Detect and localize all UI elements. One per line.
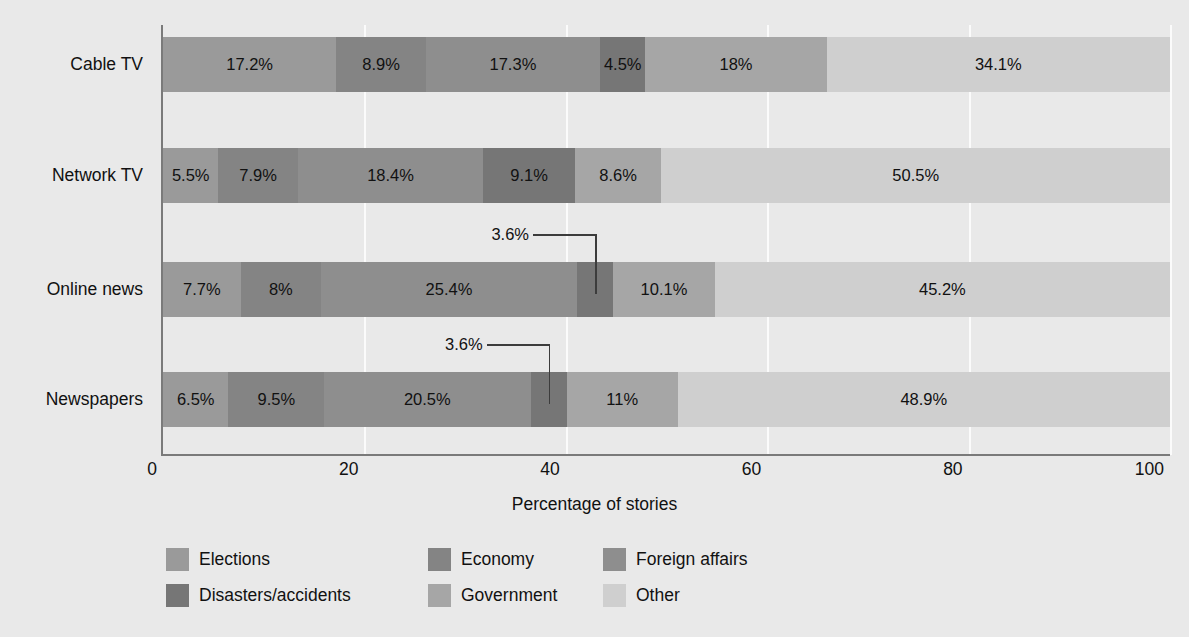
callout-leader-horizontal: [487, 344, 549, 346]
legend-label: Economy: [461, 549, 534, 570]
stacked-bar-chart: Cable TVNetwork TVOnline newsNewspapers …: [0, 0, 1189, 637]
category-label: Cable TV: [70, 54, 143, 75]
bar-segment: 10.1%: [613, 262, 715, 317]
bar-segment-label: 7.9%: [239, 166, 277, 185]
callout-label: 3.6%: [491, 225, 529, 244]
bar-segment: 9.5%: [228, 372, 324, 427]
bar-segment: 4.5%: [600, 37, 645, 92]
bar-segment: 11%: [567, 372, 678, 427]
gridline-100: [1170, 25, 1172, 455]
legend-label: Disasters/accidents: [199, 585, 351, 606]
bar-segment-label: 10.1%: [641, 280, 688, 299]
bar-segment-label: 9.1%: [510, 166, 548, 185]
bar-segment-label: 17.2%: [226, 55, 273, 74]
x-tick-label: 20: [339, 459, 364, 480]
x-tick-label: 60: [742, 459, 767, 480]
bar-segment: 18%: [645, 37, 826, 92]
bar-segment: 7.7%: [163, 262, 241, 317]
bar-segment: 34.1%: [827, 37, 1170, 92]
bar-segment: 7.9%: [218, 148, 298, 203]
callout-leader-horizontal: [533, 234, 595, 236]
bar-segment-label: 45.2%: [919, 280, 966, 299]
legend-swatch-icon: [603, 584, 626, 607]
x-tick-label: 100: [1135, 459, 1170, 480]
bar-segment: 8.9%: [336, 37, 426, 92]
x-axis-title: Percentage of stories: [0, 494, 1189, 515]
plot-area: 17.2%8.9%17.3%4.5%18%34.1%5.5%7.9%18.4%9…: [163, 25, 1170, 455]
bar-segment-label: 4.5%: [604, 55, 642, 74]
legend-swatch-icon: [428, 548, 451, 571]
bar-segment-label: 25.4%: [426, 280, 473, 299]
bar-segment-label: 8.6%: [599, 166, 637, 185]
bar-row: 5.5%7.9%18.4%9.1%8.6%50.5%: [163, 148, 1170, 203]
legend-label: Government: [461, 585, 557, 606]
bar-segment-label: 17.3%: [490, 55, 537, 74]
category-label: Newspapers: [46, 389, 143, 410]
bar-segment-label: 5.5%: [172, 166, 210, 185]
callout-label: 3.6%: [445, 335, 483, 354]
bar-segment-label: 50.5%: [892, 166, 939, 185]
bar-segment-label: 8.9%: [362, 55, 400, 74]
callout-leader-vertical: [549, 344, 551, 404]
bar-segment: 48.9%: [678, 372, 1170, 427]
bar-segment: 17.2%: [163, 37, 336, 92]
bar-segment: 8%: [241, 262, 322, 317]
x-axis-ticks: 020406080100: [163, 455, 1170, 485]
legend: ElectionsEconomyForeign affairs Disaster…: [166, 548, 866, 620]
legend-item[interactable]: Elections: [166, 548, 270, 571]
bar-segment-label: 18.4%: [367, 166, 414, 185]
bar-segment-label: 20.5%: [404, 390, 451, 409]
legend-swatch-icon: [166, 584, 189, 607]
callout-leader-vertical: [595, 234, 597, 294]
bar-segment-label: 7.7%: [183, 280, 221, 299]
legend-item[interactable]: Government: [428, 584, 557, 607]
legend-item[interactable]: Disasters/accidents: [166, 584, 351, 607]
bar-segment-label: 6.5%: [177, 390, 215, 409]
legend-swatch-icon: [428, 584, 451, 607]
category-label: Online news: [47, 279, 143, 300]
legend-row-2: Disasters/accidentsGovernmentOther: [166, 584, 866, 620]
bar-row: 6.5%9.5%20.5%11%48.9%: [163, 372, 1170, 427]
x-tick-label: 80: [943, 459, 968, 480]
legend-row-1: ElectionsEconomyForeign affairs: [166, 548, 866, 584]
bar-segment-label: 9.5%: [257, 390, 295, 409]
legend-item[interactable]: Other: [603, 584, 680, 607]
legend-item[interactable]: Foreign affairs: [603, 548, 748, 571]
bar-segment: 25.4%: [321, 262, 577, 317]
bar-segment-label: 8%: [269, 280, 293, 299]
x-tick-label: 0: [147, 459, 163, 480]
bar-segment: 20.5%: [324, 372, 530, 427]
x-tick-label: 40: [540, 459, 565, 480]
bar-row: 7.7%8%25.4%10.1%45.2%: [163, 262, 1170, 317]
legend-label: Other: [636, 585, 680, 606]
bar-segment: 8.6%: [575, 148, 662, 203]
category-axis: Cable TVNetwork TVOnline newsNewspapers: [0, 25, 155, 455]
legend-swatch-icon: [166, 548, 189, 571]
bar-segment-label: 18%: [719, 55, 752, 74]
bar-segment: 6.5%: [163, 372, 228, 427]
bar-row: 17.2%8.9%17.3%4.5%18%34.1%: [163, 37, 1170, 92]
category-label: Network TV: [52, 165, 143, 186]
bar-segment: 50.5%: [661, 148, 1170, 203]
legend-item[interactable]: Economy: [428, 548, 534, 571]
bar-segment: 17.3%: [426, 37, 600, 92]
bar-segment-label: 11%: [606, 390, 638, 409]
bar-segment: 45.2%: [715, 262, 1170, 317]
legend-label: Foreign affairs: [636, 549, 748, 570]
bar-segment: 5.5%: [163, 148, 218, 203]
bar-segment-label: 48.9%: [900, 390, 947, 409]
bar-segment: 9.1%: [483, 148, 575, 203]
bar-segment-label: 34.1%: [975, 55, 1022, 74]
legend-label: Elections: [199, 549, 270, 570]
bar-segment: 18.4%: [298, 148, 483, 203]
legend-swatch-icon: [603, 548, 626, 571]
